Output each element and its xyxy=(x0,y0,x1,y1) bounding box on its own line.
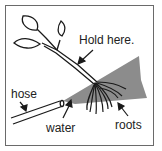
label-water: water xyxy=(46,122,75,134)
label-hose: hose xyxy=(11,88,37,100)
label-hold-here: Hold here. xyxy=(79,34,134,46)
arrow-hose-icon xyxy=(20,102,27,111)
label-roots: roots xyxy=(115,119,142,131)
arrow-roots-icon xyxy=(118,103,128,116)
arrow-hold-icon xyxy=(78,50,93,64)
